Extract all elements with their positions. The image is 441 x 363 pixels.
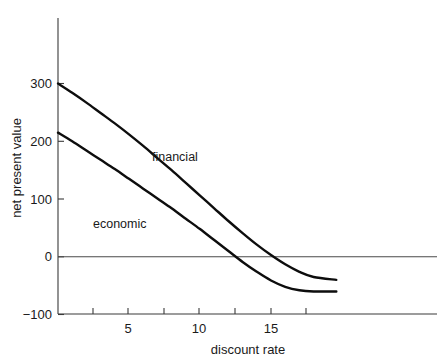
y-tick-label-0: 0	[45, 249, 52, 264]
npv-discount-rate-chart: 300 200 100 0 −100 5 10 15 discount rate…	[0, 0, 441, 363]
x-tick-marks	[93, 308, 306, 314]
series-annotation-financial: financial	[152, 150, 198, 164]
x-axis-title: discount rate	[211, 342, 285, 357]
y-tick-label-100: 100	[30, 192, 52, 207]
y-tick-label-neg100: −100	[23, 307, 52, 322]
chart-svg: 300 200 100 0 −100 5 10 15 discount rate…	[0, 0, 441, 363]
series-line-financial	[58, 84, 336, 280]
y-tick-label-200: 200	[30, 134, 52, 149]
y-tick-label-300: 300	[30, 76, 52, 91]
series-annotation-economic: economic	[93, 217, 147, 231]
x-tick-label-10: 10	[192, 321, 206, 336]
y-axis-title: net present value	[9, 118, 24, 218]
y-tick-marks	[58, 84, 64, 315]
x-tick-label-5: 5	[124, 321, 131, 336]
x-tick-label-15: 15	[264, 321, 278, 336]
